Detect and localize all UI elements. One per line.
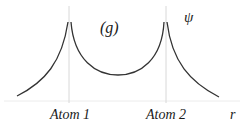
state-label: (g) [100,19,119,37]
r-axis-label: r [230,107,235,123]
wavefunction-curve-right-tail [167,22,219,97]
atom-1-label: Atom 1 [50,107,90,123]
atom-2-label: Atom 2 [146,107,186,123]
wavefunction-curve-left-tail [17,22,68,96]
psi-axis-label: ψ [184,9,193,26]
wavefunction-diagram [0,0,246,132]
